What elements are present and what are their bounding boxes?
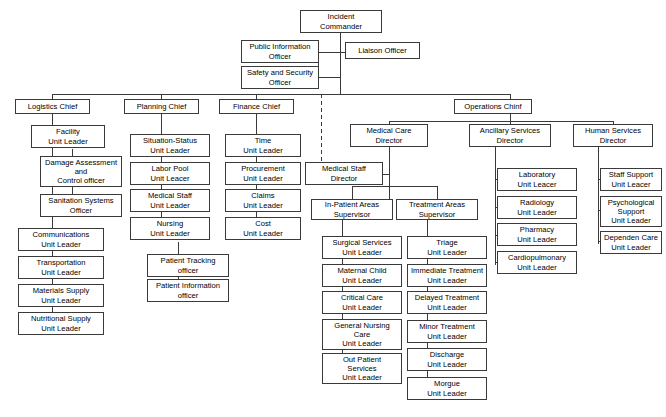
node-patient-tracking-officer[interactable]: Patient Tracking officer: [147, 254, 229, 277]
node-public-information-officer[interactable]: Public Information Officer: [241, 40, 319, 63]
node-staff-support-unit-leader[interactable]: Staff Support Unit Leacer: [600, 168, 662, 191]
node-transportation-unit-leader[interactable]: Transportation Unit Leader: [18, 256, 104, 279]
node-maternal-child-unit-leader[interactable]: Maternal Child Unit Leader: [322, 264, 402, 287]
node-ancillary-services-director[interactable]: Ancillary Services Director: [469, 124, 551, 147]
node-materials-supply-unit-leader[interactable]: Materials Supply Unit Leader: [18, 284, 104, 307]
node-finance-chief[interactable]: Finance Chief: [219, 99, 294, 114]
node-communications-unit-leader[interactable]: Communications Unit Leader: [18, 228, 104, 251]
node-human-services-director[interactable]: Human Services Director: [573, 124, 653, 147]
node-sanitation-systems-officer[interactable]: Sanitation Systems Officer: [40, 194, 122, 217]
node-laboratory-unit-leader[interactable]: Laboratory Unit Leacer: [497, 168, 577, 191]
node-claims-unit-leader[interactable]: Claims Unit Leader: [225, 189, 301, 212]
node-operations-chief[interactable]: Operations Chinf: [454, 99, 532, 114]
node-medical-staff-unit-leader[interactable]: Medical Staff Unit Leader: [130, 189, 210, 212]
node-minor-treatment-unit-leader[interactable]: Minor Treatment Unit Leader: [407, 320, 487, 343]
node-radiology-unit-leader[interactable]: Radiology Unit Leader: [497, 196, 577, 219]
node-dependent-care-unit-leader[interactable]: Dependen Care Unit Leader: [600, 231, 662, 254]
node-incident-commander[interactable]: Incident Commander: [300, 10, 382, 33]
node-medical-staff-director[interactable]: Medical Staff Director: [305, 162, 383, 185]
node-procurement-unit-leader[interactable]: Procurement Unit Leader: [225, 162, 301, 185]
node-cardiopulmonary-unit-leader[interactable]: Cardiopulmonary Unit Leader: [497, 251, 577, 274]
node-nursing-unit-leader[interactable]: Nursing Unit Leader: [130, 217, 210, 240]
node-facility-unit-leader[interactable]: Facility Unit Leader: [31, 125, 105, 148]
node-situation-status-unit-leader[interactable]: Situation-Status Unit Leader: [130, 134, 210, 157]
node-immediate-treatment-unit-leader[interactable]: Immediate Treatment Unit Leader: [407, 264, 487, 287]
node-general-nursing-care-unit-leader[interactable]: General Nursing Care Unit Leader: [322, 319, 402, 350]
node-surgical-services-unit-leader[interactable]: Surgical Services Unit Leader: [322, 236, 402, 259]
node-discharge-unit-leader[interactable]: Discharge Unit Leader: [407, 348, 487, 371]
node-planning-chief[interactable]: Planning Chief: [124, 99, 199, 114]
node-safety-and-security-officer[interactable]: Safety and Security Officer: [241, 66, 319, 89]
node-in-patient-areas-supervisor[interactable]: In-Patient Areas Supervisor: [311, 199, 393, 220]
node-damage-assessment-and-control-officer[interactable]: Damage Assessment and Control officer: [40, 156, 122, 187]
node-labor-pool-unit-leader[interactable]: Labor Pool Unit Leacer: [130, 162, 210, 185]
node-nutritional-supply-unit-leader[interactable]: Nutritional Supply Unit Leader: [18, 312, 104, 335]
node-out-patient-services-unit-leader[interactable]: Out Patient Services Unit Leader: [322, 353, 402, 384]
node-time-unit-leader[interactable]: Time Unit Leader: [225, 134, 301, 157]
node-triage-unit-leader[interactable]: Triage Unit Leader: [407, 236, 487, 259]
node-patient-information-officer[interactable]: Patient Information officer: [147, 279, 229, 302]
node-liaison-officer[interactable]: Liaison Officer: [345, 42, 420, 59]
node-treatment-areas-supervisor[interactable]: Treatment Areas Supervisor: [396, 199, 478, 220]
node-medical-care-director[interactable]: Medical Care Director: [350, 124, 428, 147]
node-pharmacy-unit-leader[interactable]: Pharmacy Unit Leader: [497, 223, 577, 246]
org-chart: Incident Commander Public Information Of…: [0, 0, 666, 417]
node-delayed-treatment-unit-leader[interactable]: Delayed Treatment Unit Leader: [407, 291, 487, 314]
node-morgue-unit-leader[interactable]: Morgue Unit Leader: [407, 377, 487, 400]
node-logistics-chief[interactable]: Logistics Chief: [15, 99, 90, 114]
node-critical-care-unit-leader[interactable]: Critical Care Unit Leader: [322, 291, 402, 314]
node-psychological-support-unit-leader[interactable]: Psychological Support Unit Leader: [600, 196, 662, 227]
node-cost-unit-leader[interactable]: Cost Unit Leader: [225, 217, 301, 240]
